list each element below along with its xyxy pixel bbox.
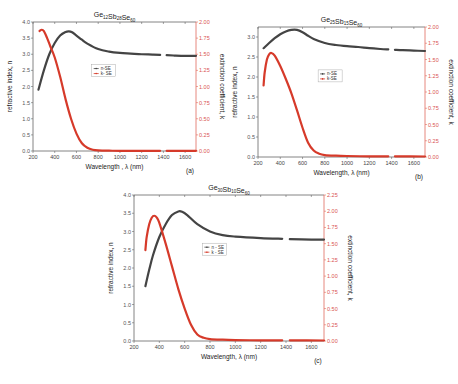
y2-tick-label: 1.75 [199,35,210,41]
y2-tick-label: 0.00 [199,148,210,154]
y-tick-label: 3.5 [22,35,30,41]
y-tick-label: 2.5 [22,67,30,73]
x-tick-label: 1400 [280,344,292,350]
n-curve [395,50,425,51]
y2-tick-label: 1.00 [428,89,439,95]
y2-tick-label: 0.25 [428,138,439,144]
legend: n - SEk - SE [202,243,226,255]
x-tick-label: 1000 [114,154,126,160]
y2-tick-label: 1.25 [199,67,210,73]
n-curve [264,30,389,50]
y2-tick-label: 0.00 [327,338,338,344]
legend: n-SEk- SE [92,65,116,77]
y-tick-label: 2.0 [22,84,30,90]
chart-panel-2: 20040060080010001200140016000.00.51.01.5… [107,184,354,365]
k-curve [264,53,389,156]
x-tick-label: 400 [50,154,59,160]
y2-tick-label: 1.00 [199,84,210,90]
y-tick-label: 2.5 [123,247,131,253]
y-tick-label: 4.0 [22,19,30,25]
y2-tick-label: 0.75 [327,289,338,295]
x-axis-title: Wavelength, λ (nm) [313,169,369,177]
y-tick-label: 1.5 [22,100,30,106]
y-tick-label: 1.5 [247,94,255,100]
x-tick-label: 1400 [157,154,169,160]
y-tick-label: 0.0 [22,148,30,154]
x-tick-label: 600 [298,160,307,166]
y2-tick-label: 2.25 [327,192,338,198]
y2-tick-label: 0.00 [428,154,439,160]
chart-panel-0: 20040060080010001200140016000.00.51.01.5… [6,11,226,175]
y-tick-label: 1.0 [123,302,131,308]
y2-tick-label: 0.50 [428,122,439,128]
y-tick-label: 3.0 [22,51,30,57]
y2-tick-label: 1.75 [428,40,439,46]
y2-tick-label: 1.25 [428,73,439,79]
y2-tick-label: 1.50 [327,241,338,247]
x-tick-label: 1600 [408,160,420,166]
y2-axis-title: extinction coefficient, k [219,54,226,120]
x-tick-label: 1200 [136,154,148,160]
x-tick-label: 1200 [363,160,375,166]
y-tick-label: 3.5 [123,210,131,216]
k-curve [40,30,161,151]
y-axis-title: refractive index, n [6,60,13,112]
y-tick-label: 3.0 [123,229,131,235]
x-axis-title: Wavelength, λ (nm) [201,353,257,361]
y-tick-label: 2.0 [123,265,131,271]
y2-tick-label: 1.75 [327,224,338,230]
n-curve [167,55,196,56]
y2-axis-title: extinction coefficient, k [448,59,455,125]
y2-tick-label: 2.00 [199,19,210,25]
y-tick-label: 0.5 [22,132,30,138]
x-tick-label: 200 [28,154,37,160]
y-tick-label: 1.0 [22,116,30,122]
y-tick-label: 3.0 [247,34,255,40]
x-tick-label: 800 [94,154,103,160]
y2-tick-label: 0.25 [199,132,210,138]
y2-tick-label: 2.00 [327,208,338,214]
panel-label: (b) [415,173,423,181]
y2-tick-label: 1.25 [327,257,338,263]
y2-tick-label: 1.50 [428,57,439,63]
x-tick-label: 400 [155,344,164,350]
x-tick-label: 800 [205,344,214,350]
panel-label: (a) [186,167,194,175]
y-tick-label: 4.0 [123,192,131,198]
y-axis-title: refractive index, n [107,242,114,294]
y2-tick-label: 1.00 [327,273,338,279]
y-tick-label: 2.0 [247,74,255,80]
chart-title: Ge12Sb28Se60 [94,11,136,23]
legend: n-SEk-SE [318,70,342,82]
y-tick-label: 2.5 [247,54,255,60]
x-tick-label: 600 [180,344,189,350]
y2-tick-label: 1.50 [199,51,210,57]
panel-label: (c) [314,357,322,365]
chart-title: Ge30Sb10Se60 [208,184,250,196]
y-tick-label: 0.0 [247,154,255,160]
x-tick-label: 1000 [229,344,241,350]
x-tick-label: 1600 [179,154,191,160]
y2-tick-label: 0.25 [327,322,338,328]
y-tick-label: 0.5 [247,134,255,140]
x-tick-label: 600 [72,154,81,160]
x-tick-label: 1400 [385,160,397,166]
y-tick-label: 0.0 [123,338,131,344]
x-tick-label: 1600 [305,344,317,350]
y2-tick-label: 0.75 [199,100,210,106]
x-tick-label: 200 [129,344,138,350]
y2-axis-title: extinction coefficient, k [347,235,354,301]
chart-title: Ge25Sb15Se60 [321,16,363,28]
x-tick-label: 800 [320,160,329,166]
svg-text:k- SE: k- SE [101,71,112,76]
y2-tick-label: 0.50 [327,306,338,312]
y-tick-label: 1.0 [247,114,255,120]
y-axis-title: refractive index, n [231,66,238,118]
y2-tick-label: 0.50 [199,116,210,122]
y2-tick-label: 2.00 [428,24,439,30]
figure: 20040060080010001200140016000.00.51.01.5… [0,0,458,384]
svg-text:k-SE: k-SE [327,76,337,81]
x-axis-title: Wavelength , λ (nm) [86,163,144,171]
x-tick-label: 1200 [255,344,267,350]
chart-panel-1: 20040060080010001200140016000.00.51.01.5… [231,16,455,181]
